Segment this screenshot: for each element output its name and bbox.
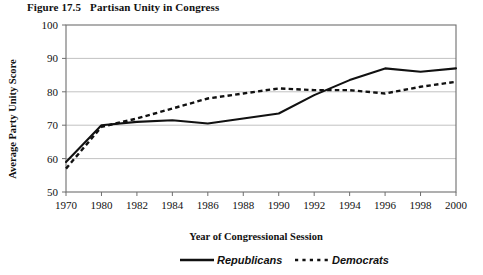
data-series-group: [66, 68, 456, 168]
axis-ticks-group: [62, 25, 456, 196]
partisan-unity-line-chart: 5060708090100 19701980198219841986198819…: [0, 12, 483, 275]
x-tick-label: 1988: [232, 199, 255, 211]
legend-label-republicans: Republicans: [217, 254, 282, 266]
x-tick-label: 1992: [303, 199, 325, 211]
x-tick-label: 1990: [268, 199, 291, 211]
x-tick-label: 1980: [90, 199, 113, 211]
y-tick-label: 90: [47, 52, 59, 64]
x-tick-label: 2000: [445, 199, 468, 211]
x-axis-tick-labels: 1970198019821984198619881990199219941996…: [55, 199, 468, 211]
x-tick-label: 1994: [339, 199, 362, 211]
x-tick-label: 1986: [197, 199, 220, 211]
chart-legend: RepublicansDemocrats: [180, 254, 389, 266]
x-axis-title: Year of Congressional Session: [189, 231, 323, 242]
x-tick-label: 1998: [410, 199, 433, 211]
legend-label-democrats: Democrats: [332, 254, 389, 266]
gridlines-group: [66, 58, 456, 158]
y-axis-tick-labels: 5060708090100: [42, 19, 59, 198]
y-axis-title: Average Party Unity Score: [7, 59, 18, 179]
x-tick-label: 1982: [126, 199, 148, 211]
plot-area-border: [66, 25, 456, 192]
series-line-republicans: [66, 68, 456, 162]
y-tick-label: 100: [42, 19, 59, 31]
y-tick-label: 60: [47, 153, 59, 165]
x-tick-label: 1984: [161, 199, 184, 211]
y-tick-label: 70: [47, 119, 59, 131]
x-tick-label: 1970: [55, 199, 78, 211]
figure-container: Figure 17.5Partisan Unity in Congress 50…: [0, 0, 483, 275]
y-tick-label: 50: [47, 186, 59, 198]
y-tick-label: 80: [47, 86, 59, 98]
plot-frame: [66, 25, 456, 192]
x-tick-label: 1996: [374, 199, 397, 211]
